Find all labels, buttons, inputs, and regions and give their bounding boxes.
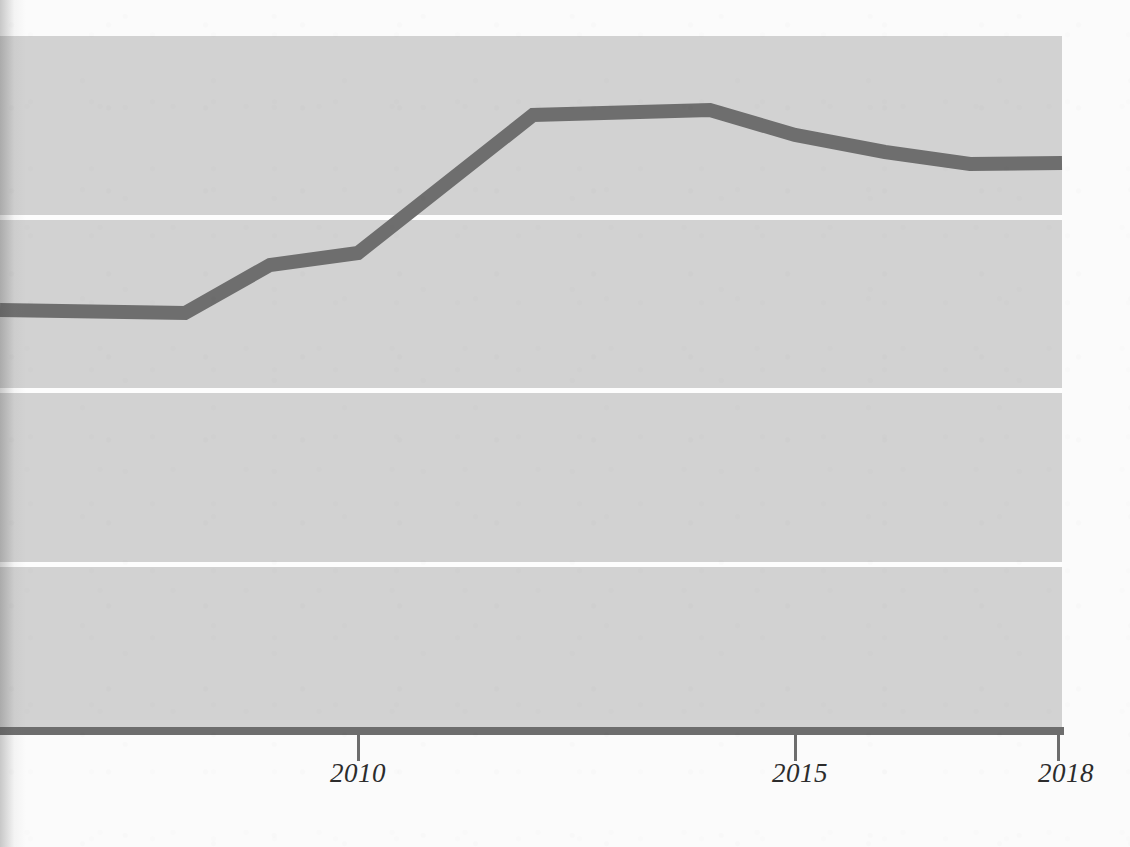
gridline xyxy=(0,215,1062,220)
gridline xyxy=(0,562,1062,567)
chart-figure: 2010 2015 2018 xyxy=(0,0,1130,847)
x-axis-line xyxy=(0,727,1064,735)
gridline xyxy=(0,388,1062,393)
plot-area xyxy=(0,36,1062,731)
x-axis-label-2018: 2018 xyxy=(1038,758,1094,789)
x-axis-label-2010: 2010 xyxy=(330,758,386,789)
x-axis-label-2015: 2015 xyxy=(772,758,828,789)
